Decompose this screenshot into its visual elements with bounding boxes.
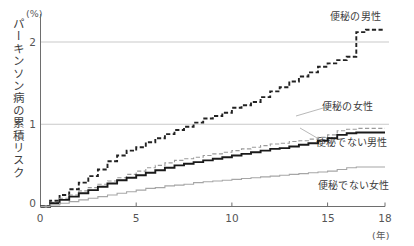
leader-line-1: [300, 128, 324, 142]
series-path-0: [41, 30, 386, 207]
series-path-1: [41, 128, 386, 206]
chart-plot-area: [0, 0, 414, 246]
parkinson-cumulative-risk-chart: パーキンソン病の累積リスク (%) 2 1 0 0 5 10 15 18 (年)…: [0, 0, 414, 246]
series-path-3: [41, 167, 386, 207]
series-path-2: [41, 133, 386, 207]
leader-line-0: [296, 106, 330, 116]
